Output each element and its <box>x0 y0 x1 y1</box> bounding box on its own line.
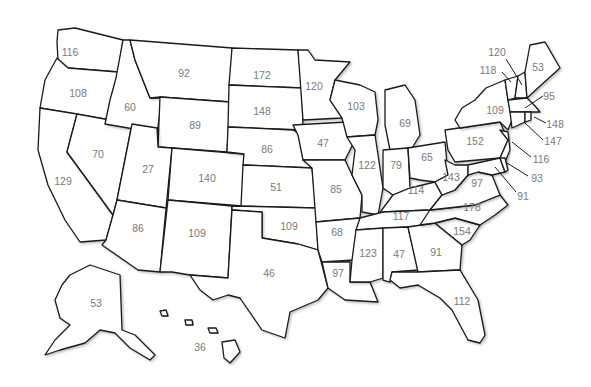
state-value-ne: 86 <box>261 143 273 155</box>
state-value-ct: 147 <box>544 135 562 147</box>
state-value-mt: 92 <box>178 67 190 79</box>
state-value-wa: 116 <box>62 46 79 58</box>
callout-line-nj <box>512 142 531 157</box>
callout-line-ri <box>534 117 546 123</box>
state-value-fl: 112 <box>454 295 471 307</box>
state-value-wv: 143 <box>442 171 460 183</box>
state-value-ny: 109 <box>486 104 504 116</box>
state-value-vt: 118 <box>480 64 497 76</box>
state-value-mo: 85 <box>330 183 342 195</box>
state-value-nj: 116 <box>533 153 550 165</box>
state-value-ia: 47 <box>317 137 329 149</box>
state-value-al: 47 <box>393 248 405 260</box>
state-value-pa: 152 <box>466 135 484 147</box>
state-value-id: 60 <box>124 101 136 113</box>
state-value-mi: 69 <box>399 117 411 129</box>
state-hi-4[interactable] <box>222 340 240 363</box>
states-layer <box>38 28 560 363</box>
state-value-nd: 172 <box>253 69 271 81</box>
state-value-sd: 148 <box>253 105 271 117</box>
state-value-ri: 148 <box>546 118 564 130</box>
state-value-il: 122 <box>358 159 376 171</box>
state-value-co: 140 <box>198 172 216 184</box>
state-value-tn: 117 <box>393 210 410 222</box>
callout-line-ct <box>524 122 543 140</box>
state-value-hi: 36 <box>194 341 206 353</box>
state-value-md: 91 <box>517 190 529 202</box>
state-in[interactable] <box>383 148 410 195</box>
state-value-ga: 91 <box>430 246 442 258</box>
state-value-mn: 120 <box>305 80 323 92</box>
state-nm[interactable] <box>160 200 232 278</box>
state-ma[interactable] <box>508 98 540 112</box>
state-value-nv: 70 <box>92 148 104 160</box>
state-value-me: 53 <box>532 61 544 73</box>
state-ak[interactable] <box>45 265 155 360</box>
state-value-ma: 95 <box>543 90 555 102</box>
state-value-va: 97 <box>471 177 483 189</box>
state-value-az: 86 <box>132 222 144 234</box>
state-value-ca: 129 <box>54 175 72 187</box>
state-hi-2[interactable] <box>185 320 193 325</box>
state-hi-3[interactable] <box>208 328 218 333</box>
state-value-ks: 51 <box>270 181 282 193</box>
state-value-ut: 27 <box>142 163 154 175</box>
state-value-ms: 123 <box>359 247 377 259</box>
state-value-nm: 109 <box>188 227 206 239</box>
state-ri[interactable] <box>525 112 531 122</box>
us-map: 1161081297060928927140861091721488651109… <box>0 0 591 387</box>
state-ct[interactable] <box>510 112 525 128</box>
state-value-ar: 68 <box>331 226 343 238</box>
callout-line-de <box>507 163 528 176</box>
state-value-nc: 178 <box>463 201 481 213</box>
state-value-tx: 46 <box>263 267 275 279</box>
state-value-wy: 89 <box>189 119 201 131</box>
state-value-ok: 109 <box>280 220 298 232</box>
state-value-in: 79 <box>390 159 402 171</box>
state-value-wi: 103 <box>347 100 365 112</box>
state-value-oh: 65 <box>421 151 433 163</box>
state-value-la: 97 <box>332 267 344 279</box>
state-fl[interactable] <box>390 270 485 343</box>
state-value-ky: 114 <box>408 184 425 196</box>
state-hi-1[interactable] <box>160 310 168 316</box>
state-value-nh: 120 <box>488 46 506 58</box>
state-value-ak: 53 <box>90 297 102 309</box>
state-value-de: 93 <box>531 172 543 184</box>
state-value-or: 108 <box>69 87 87 99</box>
state-value-sc: 154 <box>453 225 471 237</box>
